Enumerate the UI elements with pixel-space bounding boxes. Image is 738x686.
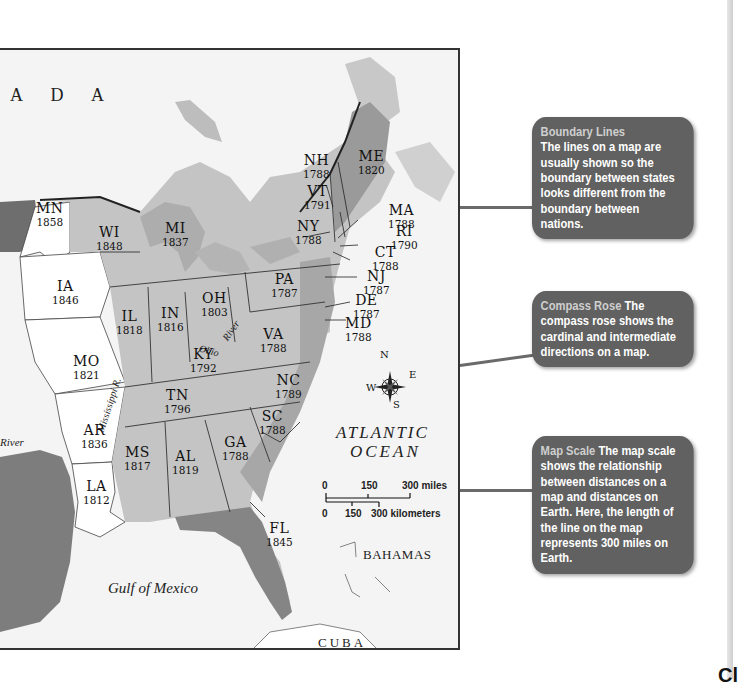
compass-e-label: E [409,370,416,380]
scale-miles-300: 300 miles [402,480,447,491]
state-label-mn: MN1858 [36,200,64,228]
callout-body: The map scale shows the relationship bet… [541,443,676,565]
state-label-oh: OH1803 [201,290,228,318]
state-label-il: IL1818 [116,308,143,336]
state-label-ia: IA1846 [52,278,79,306]
state-label-in: IN1816 [157,305,184,333]
scale-km-0: 0 [322,508,328,519]
callout-boundary-lines: Boundary Lines The lines on a map are us… [532,117,694,239]
canada-label: A D A [10,85,116,106]
compass-rose-connector [460,353,536,367]
state-label-mi: MI1837 [162,220,189,248]
state-label-ky: KY1792 [190,346,217,374]
state-label-nc: NC1789 [275,372,302,400]
callout-body: The lines on a map are usually shown so … [541,139,675,231]
state-label-la: LA1812 [83,478,110,506]
state-label-ny: NY1788 [295,218,322,246]
state-label-mo: MO1821 [73,353,100,381]
callout-map-scale: Map Scale The map scale shows the relati… [532,436,694,574]
state-label-al: AL1819 [172,448,199,476]
map-scale-connector [460,489,534,492]
atlantic-ocean-label-2: OCEAN [350,442,421,462]
state-label-wi: WI1848 [96,224,123,252]
callout-title: Compass Rose [541,298,622,313]
state-label-sc: SC1788 [259,408,286,436]
river-label: River [0,436,24,448]
gulf-of-mexico-label: Gulf of Mexico [108,580,198,597]
compass-n-label: N [380,350,389,360]
scale-miles-0: 0 [322,480,328,491]
callout-title: Boundary Lines [541,124,625,139]
callout-title: Map Scale [541,443,596,458]
state-label-ms: MS1817 [124,444,151,472]
state-label-fl: FL1845 [266,520,293,548]
state-label-me: ME1820 [358,148,385,176]
scale-km-150: 150 [345,508,362,519]
state-label-md: MD1788 [345,315,372,343]
state-label-pa: PA1787 [271,271,298,299]
state-label-va: VA1788 [260,326,287,354]
state-label-ar: AR1836 [81,422,108,450]
page-edge-strip [727,0,733,679]
scale-km-300: 300 kilometers [371,508,441,519]
scale-miles-150: 150 [361,480,378,491]
compass-s-label: S [393,400,400,410]
state-label-tn: TN1796 [164,387,191,415]
bahamas-label: BAHAMAS [363,547,432,563]
corner-heading-fragment: Cl [718,664,738,686]
callout-compass-rose: Compass Rose The compass rose shows the … [532,291,694,367]
cuba-label: CUBA [318,635,366,650]
map-frame: A D A ATLANTIC OCEAN Gulf of Mexico BAHA… [0,48,460,650]
atlantic-ocean-label-1: ATLANTIC [336,423,429,443]
boundary-lines-connector [460,206,534,209]
state-label-vt: VT1791 [304,183,331,211]
state-label-nh: NH1788 [303,152,330,180]
compass-w-label: W [366,383,376,393]
state-label-ga: GA1788 [222,434,249,462]
